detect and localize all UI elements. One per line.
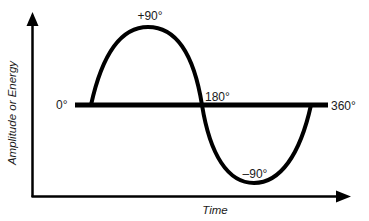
y-axis-arrow-icon [27, 12, 39, 26]
label-180-deg: 180° [205, 90, 230, 104]
x-axis-arrow-icon [336, 191, 351, 203]
label-plus-90-deg: +90° [137, 9, 162, 23]
label-0-deg: 0° [56, 98, 68, 112]
x-axis-title: Time [202, 204, 227, 216]
label-360-deg: 360° [331, 99, 356, 113]
y-axis [27, 12, 39, 197]
sine-wave-diagram: 0° +90° 180° –90° 360° Amplitude or Ener… [0, 0, 369, 221]
label-minus-90-deg: –90° [243, 167, 268, 181]
x-axis [32, 191, 352, 203]
y-axis-title: Amplitude or Energy [6, 60, 18, 166]
